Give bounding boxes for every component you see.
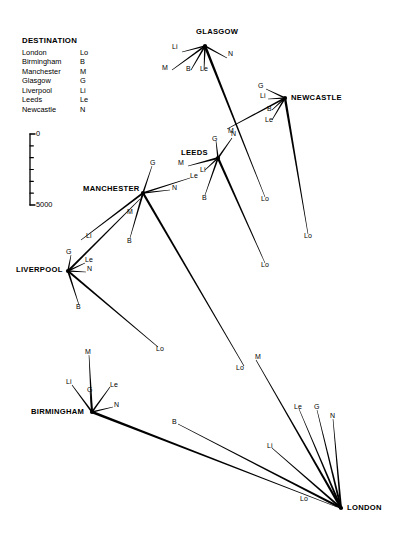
hub-node-newcastle	[283, 96, 287, 100]
flow-label-glasgow-to-leeds: Le	[200, 65, 208, 72]
flow-label-newcastle-to-birmingham: B	[267, 105, 272, 112]
flow-label-birmingham-to-glasgow: G	[87, 386, 92, 393]
flow-ray-manchester-to-glasgow	[142, 166, 152, 193]
flow-label-newcastle-to-glasgow: G	[258, 82, 263, 89]
flow-label-newcastle-to-london: Lo	[304, 232, 312, 239]
flow-label-birmingham-to-london: Lo	[300, 495, 308, 502]
flow-label-manchester-to-liverpool: Li	[86, 232, 91, 239]
legend-city-abbr: Li	[80, 86, 100, 96]
legend-city-abbr: M	[80, 67, 100, 77]
hub-node-glasgow	[203, 44, 207, 48]
flow-label-newcastle-to-leeds: Le	[265, 116, 273, 123]
flow-label-liverpool-to-leeds: Le	[85, 256, 93, 263]
legend-city-name: Birmingham	[22, 57, 80, 67]
flow-label-leeds-to-liverpool: Li	[200, 166, 205, 173]
flow-label-birmingham-to-newcastle: N	[114, 401, 119, 408]
city-label-liverpool: LIVERPOOL	[16, 265, 63, 274]
flow-label-liverpool-to-newcastle: N	[87, 265, 92, 272]
legend-row: GlasgowG	[22, 76, 108, 86]
flow-label-liverpool-to-manchester: M	[127, 208, 133, 215]
flow-label-birmingham-to-leeds: Le	[110, 381, 118, 388]
flow-label-leeds-to-newcastle: N	[231, 130, 236, 137]
legend-row: BirminghamB	[22, 57, 108, 67]
flow-label-london-to-newcastle: N	[330, 412, 335, 419]
legend-city-name: Glasgow	[22, 76, 80, 86]
flow-label-glasgow-to-birmingham: B	[186, 65, 191, 72]
legend-city-abbr: G	[80, 76, 100, 86]
flow-label-manchester-to-newcastle: N	[172, 184, 177, 191]
flow-label-newcastle-to-liverpool: Li	[260, 92, 265, 99]
flow-label-london-to-glasgow: G	[314, 403, 319, 410]
legend-row: LeedsLe	[22, 95, 108, 105]
flow-ray-manchester-to-leeds	[143, 178, 190, 194]
scale-label-max: 5000	[36, 200, 52, 209]
legend-city-name: London	[22, 48, 80, 58]
legend-row: ManchesterM	[22, 67, 108, 77]
legend-city-abbr: Le	[80, 95, 100, 105]
flow-label-leeds-to-birmingham: B	[202, 194, 207, 201]
flow-label-london-to-leeds: Le	[294, 403, 302, 410]
hub-node-leeds	[216, 156, 220, 160]
flow-label-glasgow-to-manchester: M	[162, 64, 168, 71]
hub-node-liverpool	[66, 269, 70, 273]
city-label-manchester: MANCHESTER	[83, 184, 140, 193]
legend-row: LiverpoolLi	[22, 86, 108, 96]
flow-label-liverpool-to-london: Lo	[156, 345, 164, 352]
flow-ray-glasgow-to-london	[204, 46, 265, 198]
hub-node-london	[339, 506, 343, 510]
flow-label-manchester-to-birmingham: B	[127, 237, 132, 244]
flow-ray-manchester-to-birmingham	[130, 193, 144, 238]
flow-label-leeds-to-glasgow: G	[212, 135, 217, 142]
flow-label-liverpool-to-birmingham: B	[76, 303, 81, 310]
migration-flow-diagram: DESTINATION LondonLoBirminghamBMancheste…	[0, 0, 404, 539]
flow-label-london-to-liverpool: Li	[267, 442, 272, 449]
flow-ray-leeds-to-glasgow	[216, 141, 219, 158]
city-label-birmingham: BIRMINGHAM	[31, 407, 84, 416]
destination-legend: DESTINATION LondonLoBirminghamBMancheste…	[22, 36, 108, 115]
flow-label-leeds-to-manchester: M	[178, 159, 184, 166]
flow-label-liverpool-to-glasgow: G	[66, 248, 71, 255]
flow-ray-leeds-to-london	[217, 158, 265, 264]
flow-ray-newcastle-to-london	[284, 98, 308, 234]
flow-ray-newcastle-to-manchester	[227, 97, 286, 129]
flow-ray-birmingham-to-london	[92, 411, 338, 507]
flow-label-london-to-manchester: M	[255, 353, 261, 360]
flow-label-glasgow-to-liverpool: Li	[172, 43, 177, 50]
legend-rows: LondonLoBirminghamBManchesterMGlasgowGLi…	[22, 48, 108, 115]
flow-label-birmingham-to-liverpool: Li	[66, 378, 71, 385]
legend-title: DESTINATION	[22, 36, 108, 45]
flow-label-manchester-to-london: Lo	[236, 364, 244, 371]
flow-label-glasgow-to-newcastle: N	[228, 50, 233, 57]
legend-city-name: Liverpool	[22, 86, 80, 96]
city-label-leeds: LEEDS	[181, 148, 208, 157]
city-label-newcastle: NEWCASTLE	[291, 93, 342, 102]
flow-ray-newcastle-to-glasgow	[266, 89, 285, 99]
legend-city-abbr: Lo	[80, 48, 100, 58]
hub-node-birmingham	[90, 410, 94, 414]
legend-city-abbr: N	[80, 105, 100, 115]
flow-label-london-to-birmingham: B	[172, 418, 177, 425]
legend-city-abbr: B	[80, 57, 100, 67]
city-label-london: LONDON	[347, 503, 382, 512]
scale-label-min: 0	[36, 129, 40, 138]
flow-label-manchester-to-leeds: Le	[190, 172, 198, 179]
flow-ray-manchester-to-london	[142, 192, 244, 366]
flow-ray-leeds-to-newcastle	[217, 138, 232, 159]
legend-city-name: Manchester	[22, 67, 80, 77]
legend-row: NewcastleN	[22, 105, 108, 115]
legend-city-name: Leeds	[22, 95, 80, 105]
legend-row: LondonLo	[22, 48, 108, 58]
flow-label-birmingham-to-manchester: M	[85, 348, 91, 355]
flow-label-manchester-to-glasgow: G	[150, 159, 155, 166]
flow-label-glasgow-to-london: Lo	[261, 195, 269, 202]
hub-node-manchester	[141, 191, 145, 195]
city-label-glasgow: GLASGOW	[196, 27, 238, 36]
flow-label-leeds-to-london: Lo	[261, 261, 269, 268]
legend-city-name: Newcastle	[22, 105, 80, 115]
